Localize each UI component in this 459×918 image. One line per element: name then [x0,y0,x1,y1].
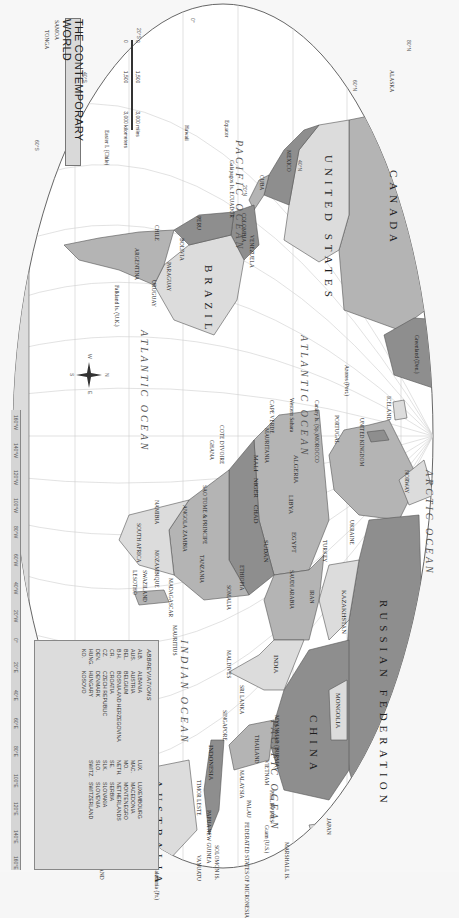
lon-tick: 140°E [13,830,18,844]
label-peru: PERU [196,216,202,230]
ocean-label-atlantic-south: ATLANTIC OCEAN [139,330,149,452]
abbr-code: ALB. [136,649,143,671]
lat-tick-20s: 20°S [136,28,141,39]
label-south-africa: SOUTH AFRICA [136,523,142,563]
abbr-code: DEN. [94,649,101,671]
label-malaysia: MALAYSIA [239,770,245,799]
label-papua-new-guinea: PAPUA NEW GUINEA [206,810,212,863]
abbr-name: DENMARK [94,671,101,697]
label-greenland: Greenland (Den.) [414,335,420,373]
label-mali: MALI [253,455,260,472]
label-palau: PALAU [246,800,252,818]
scale-miles-3000: 3,000 miles [135,111,141,137]
abbr-row: KO.KOSOVO [80,649,87,750]
label-kazakhstan: KAZAKHSTAN [341,590,348,634]
longitude-strip: 160°W 140°W 120°W 100°W 80°W 60°W 40°W 2… [11,410,21,870]
scale-km-1500: 1,500 [123,71,129,84]
madagascar [134,590,169,605]
abbr-code: BEL. [122,649,129,671]
scale-miles: 0 1,500 3,000 miles [135,40,141,148]
label-timor-leste: TIMOR LESTE [196,780,202,816]
label-niger: NIGER [253,478,260,498]
label-micronesia: FEDERATED STATES OF MICRONESIA [244,822,250,918]
label-chad: CHAD [253,505,260,523]
label-ghana: GHANA [209,440,215,460]
abbr-code: KO. [80,649,87,671]
label-portugal: PORTUGAL [334,415,340,444]
label-solomon: SOLOMON IS. [214,845,220,880]
abbr-code: CZ. [101,649,108,671]
label-mexico: MEXICO [286,150,292,172]
label-somalia: SOMALIA [226,585,232,610]
label-iceland: ICELAND [386,396,392,420]
label-united-kingdom: UNITED KINGDOM [359,418,365,466]
lon-tick: 40°E [13,690,18,701]
label-alaska: ALASKA [389,70,395,92]
label-philippines: PHILIPPINES [269,790,275,822]
label-falkland: Falkland Is. (U.K.) [114,285,120,327]
abbreviations-legend: ABBREVIATIONS ALB.ALBANIA AUS.AUSTRIA BE… [34,640,159,870]
abbr-row: DEN.DENMARK [94,649,101,750]
lon-tick: 160°W [13,415,18,430]
label-egypt: EGYPT [291,532,298,553]
lon-tick: 120°E [13,802,18,816]
lon-tick: 120°W [13,470,18,485]
label-swaziland: SWAZILAND [142,570,148,602]
lon-tick: 140°W [13,443,18,458]
abbr-row: SLO.SLOVENIA [94,760,101,861]
label-brazil: BRAZIL [203,265,214,335]
abbr-row: CR.CROATIA [108,649,115,750]
lon-tick: 80°W [13,526,18,538]
abbr-code: B.H. [115,649,122,671]
map-title: THE CONTEMPORARY WORLD [65,18,81,166]
abbr-name: ALBANIA [136,671,143,693]
label-angola: ANGOLA [182,505,188,528]
label-libya: LIBYA [288,495,295,514]
label-guam: Guam (U.S.) [264,825,270,853]
label-tanzania: TANZANIA [199,555,205,583]
lon-tick: 100°E [13,774,18,788]
label-morocco: MOROCCO [314,435,320,463]
abbr-row: MO.MONTENEGRO [122,760,129,861]
label-china: CHINA [308,715,319,775]
label-chile: CHILE [154,225,160,241]
lon-tick: 60°W [13,554,18,566]
label-mozambique: MOZAMBIQUE [154,550,160,588]
label-india: INDIA [273,655,280,673]
abbr-code: MO. [122,760,129,782]
lon-tick: 100°W [13,498,18,513]
label-ethiopia: ETHIOPIA [239,565,245,590]
abbr-row: LUX.LUXEMBOURG [136,760,143,861]
lon-tick: 160°E [13,856,18,870]
label-canada: CANADA [388,170,399,247]
abbr-name: NETHERLANDS [115,782,122,821]
label-russia: RUSSIAN FEDERATION [378,600,389,808]
compass-s: S [69,373,74,376]
scale-miles-0: 0 [135,40,141,43]
ocean-label-arctic: ARCTIC OCEAN [424,470,434,576]
label-singapore: SINGAPORE [222,710,228,741]
label-mongolia: MONGOLIA [335,693,342,728]
abbr-name: BELGIUM [122,671,129,694]
scale-km-0: 0 [123,40,129,43]
label-azores: Azores (Port.) [344,365,350,396]
abbr-code: NETH. [115,760,122,782]
label-cote-divoire: COTE D'IVOIRE [219,425,225,464]
label-hawaii: Hawaii [184,125,190,141]
label-easter-island: Easter I. (Chile) [104,130,110,165]
label-bolivia: BOLIVIA [179,238,185,261]
label-paraguay: PARAGUAY [166,262,172,292]
abbr-code: AUS. [129,649,136,671]
abbr-code: SLK. [101,760,108,782]
abbr-name: KOSOVO [80,671,87,694]
abbr-code: SE. [108,760,115,782]
abbr-code: SLO. [94,760,101,782]
label-saudi-arabia: SAUDI ARABIA [289,570,295,609]
lat-tick-80n: 80°N [406,40,411,51]
label-western-sahara: Western Sahara [289,398,295,432]
label-madagascar: MADAGASCAR [168,578,174,617]
label-samoa: SAMOA [54,20,60,40]
label-vanuatu: VANUATU [196,855,202,881]
lon-tick: 80°E [13,746,18,757]
abbr-row: HUNG.HUNGARY [87,649,94,750]
